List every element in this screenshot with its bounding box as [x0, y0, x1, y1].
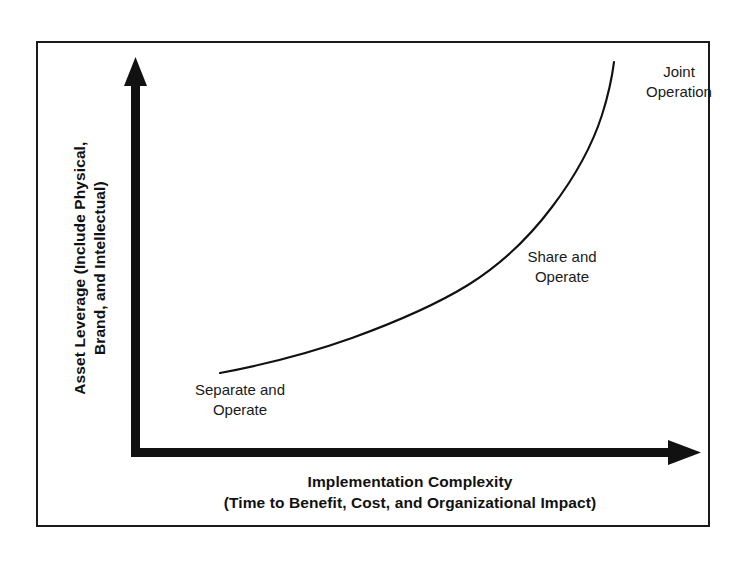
annotation-share-line-1: Share and	[492, 247, 632, 267]
annotation-joint-operation: Joint Operation	[624, 62, 734, 101]
annotation-separate-line-2: Operate	[160, 400, 320, 420]
annotation-joint-line-2: Operation	[624, 82, 734, 102]
annotation-share-line-2: Operate	[492, 267, 632, 287]
x-axis-title-line-1: Implementation Complexity	[120, 472, 700, 493]
figure-page: Asset Leverage (Include Physical, Brand,…	[0, 0, 741, 565]
y-axis-title-line-1: Asset Leverage (Include Physical,	[70, 108, 90, 428]
y-axis-title: Asset Leverage (Include Physical, Brand,…	[70, 108, 110, 428]
data-curve	[220, 62, 614, 373]
y-axis-arrow	[124, 57, 147, 457]
x-axis-title: Implementation Complexity (Time to Benef…	[120, 472, 700, 514]
x-axis-arrow	[131, 440, 701, 465]
annotation-joint-line-1: Joint	[624, 62, 734, 82]
annotation-share-and-operate: Share and Operate	[492, 247, 632, 286]
annotation-separate-and-operate: Separate and Operate	[160, 380, 320, 419]
x-axis-title-line-2: (Time to Benefit, Cost, and Organization…	[120, 493, 700, 514]
y-axis-title-line-2: Brand, and Intellectual)	[90, 108, 110, 428]
annotation-separate-line-1: Separate and	[160, 380, 320, 400]
